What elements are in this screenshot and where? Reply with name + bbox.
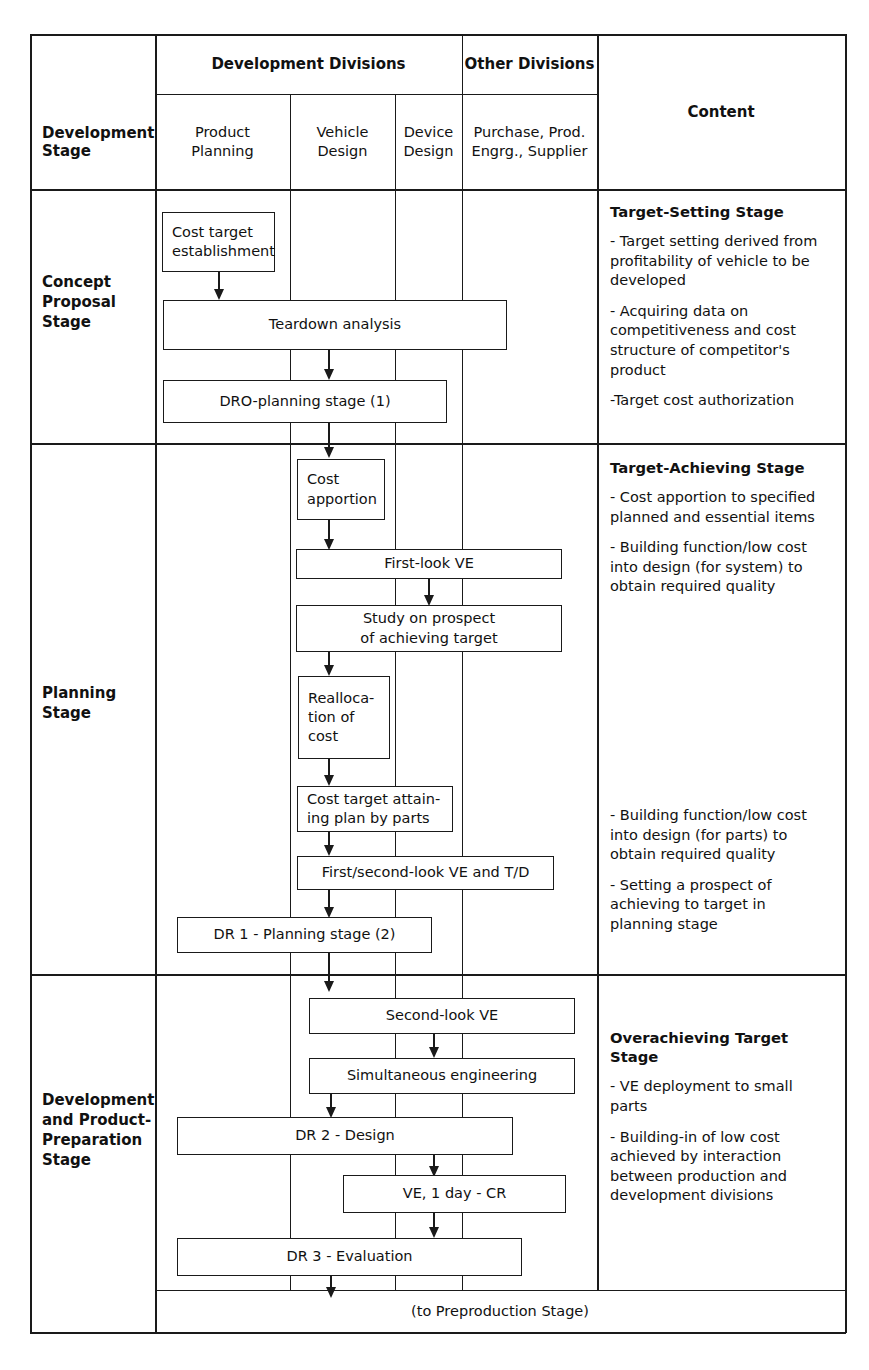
diagram-canvas: Development Divisions Other Divisions De… bbox=[0, 0, 869, 1370]
header-development-stage: Development Stage bbox=[42, 94, 152, 189]
grid-col-device-design bbox=[462, 34, 463, 1290]
grid-line-row1-bottom bbox=[30, 443, 846, 445]
process-box-reallocation-of-cost[interactable]: Realloca- tion of cost bbox=[298, 676, 390, 759]
grid-line-header-bottom bbox=[30, 189, 846, 191]
content-item: - Acquiring data on competitiveness and … bbox=[610, 302, 836, 380]
header-purchase-prod-engrg-supplier: Purchase, Prod. Engrg., Supplier bbox=[462, 94, 597, 189]
grid-col-stage bbox=[155, 34, 157, 1333]
process-box-cost-target-attaining-plan[interactable]: Cost target attain- ing plan by parts bbox=[297, 786, 453, 832]
grid-line-left bbox=[30, 34, 32, 1333]
process-box-second-look-ve[interactable]: Second-look VE bbox=[309, 998, 575, 1034]
stage-label-concept-proposal: Concept Proposal Stage bbox=[42, 272, 152, 332]
process-box-dr2-design[interactable]: DR 2 - Design bbox=[177, 1117, 513, 1155]
grid-line-bottom bbox=[30, 1332, 846, 1334]
header-other-divisions: Other Divisions bbox=[462, 34, 597, 94]
process-box-ve-1-day-cr[interactable]: VE, 1 day - CR bbox=[343, 1175, 566, 1213]
process-box-teardown-analysis[interactable]: Teardown analysis bbox=[163, 300, 507, 350]
grid-col-product-planning bbox=[290, 94, 291, 1290]
stage-label-development-product-preparation: Development and Product- Preparation Sta… bbox=[42, 1090, 154, 1170]
content-title: Target-Achieving Stage bbox=[610, 458, 836, 477]
content-item: - Setting a prospect of achieving to tar… bbox=[610, 876, 836, 935]
header-product-planning: Product Planning bbox=[155, 94, 290, 189]
content-item: - Building function/low cost into design… bbox=[610, 806, 836, 865]
process-box-first-second-look-ve-td[interactable]: First/second-look VE and T/D bbox=[297, 856, 554, 890]
grid-line-right bbox=[845, 34, 847, 1333]
content-title: Overachieving Target Stage bbox=[610, 1028, 836, 1066]
content-block-target-achieving-stage-lower: - Building function/low cost into design… bbox=[610, 806, 836, 934]
grid-col-content bbox=[597, 34, 599, 1290]
grid-line-row2-bottom bbox=[30, 974, 846, 976]
content-block-target-achieving-stage: Target-Achieving Stage - Cost apportion … bbox=[610, 458, 836, 597]
content-block-target-setting-stage: Target-Setting Stage - Target setting de… bbox=[610, 202, 836, 411]
header-vehicle-design: Vehicle Design bbox=[290, 94, 395, 189]
header-content: Content bbox=[597, 34, 845, 189]
process-box-simultaneous-engineering[interactable]: Simultaneous engineering bbox=[309, 1058, 575, 1094]
content-item: - VE deployment to small parts bbox=[610, 1077, 836, 1116]
grid-col-vehicle-design bbox=[395, 94, 396, 1290]
process-box-dro-planning-stage[interactable]: DRO-planning stage (1) bbox=[163, 380, 447, 423]
process-box-dr1-planning-stage[interactable]: DR 1 - Planning stage (2) bbox=[177, 917, 432, 953]
content-item: - Building function/low cost into design… bbox=[610, 538, 836, 597]
header-device-design: Device Design bbox=[395, 94, 462, 189]
grid-line-content-footer bbox=[597, 1290, 845, 1291]
process-box-dr3-evaluation[interactable]: DR 3 - Evaluation bbox=[177, 1238, 522, 1276]
process-box-cost-apportion[interactable]: Cost apportion bbox=[297, 459, 385, 520]
process-box-first-look-ve[interactable]: First-look VE bbox=[296, 549, 562, 579]
header-development-divisions: Development Divisions bbox=[155, 34, 462, 94]
process-box-study-on-prospect[interactable]: Study on prospect of achieving target bbox=[296, 605, 562, 652]
content-item: - Building-in of low cost achieved by in… bbox=[610, 1128, 836, 1206]
content-title: Target-Setting Stage bbox=[610, 202, 836, 221]
content-item: - Cost apportion to specified planned an… bbox=[610, 488, 836, 527]
stage-label-planning: Planning Stage bbox=[42, 683, 152, 723]
content-item: - Target setting derived from profitabil… bbox=[610, 232, 836, 291]
content-block-overachieving-target-stage: Overachieving Target Stage - VE deployme… bbox=[610, 1028, 836, 1206]
content-item: -Target cost authorization bbox=[610, 391, 836, 411]
process-box-cost-target-establishment[interactable]: Cost target establishment bbox=[162, 212, 275, 272]
footer-to-preproduction-stage: (to Preproduction Stage) bbox=[155, 1303, 845, 1319]
